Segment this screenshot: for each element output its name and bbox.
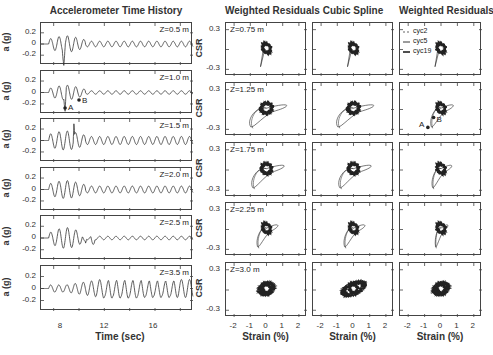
acceleration-trace [41, 228, 193, 249]
x-axis-label-strain: Strain (%) [399, 331, 481, 342]
y-tick: 0.2 [14, 220, 36, 229]
csr-y-tick: -0.3 [200, 63, 220, 72]
marker-b-label: B [82, 96, 87, 105]
depth-label: Z=1.75 m [230, 145, 264, 154]
x-tick-8: 8 [50, 321, 70, 330]
wr-panel-5: Z=3.0 m [225, 262, 306, 316]
legend-cyc19: cyc19 [413, 47, 431, 54]
wr-panel-4: Z=2.25 m [225, 202, 306, 255]
y-tick: 0 [14, 283, 36, 292]
left-column-title: Accelerometer Time History [40, 5, 192, 16]
depth-label: Z=0.75 m [230, 25, 264, 34]
x-tick-12: 12 [94, 321, 114, 330]
marker-a-label: A [419, 120, 424, 129]
depth-label: Z=1.5 m [159, 121, 189, 130]
csr-y-tick: 0.3 [200, 264, 220, 273]
y-tick: 0 [14, 232, 36, 241]
hysteresis-loop [432, 281, 450, 296]
hysteresis-loop [340, 280, 367, 297]
cs-panel-2 [312, 82, 393, 135]
csr-y-tick: -0.3 [200, 123, 220, 132]
legend-cyc5: cyc5 [413, 37, 427, 44]
x-tick-16: 16 [143, 321, 163, 330]
strain-x-tick: 2 [288, 321, 308, 330]
y-axis-label-acceleration: a (g) [1, 71, 11, 111]
hysteresis-loop [344, 225, 365, 247]
y-axis-label-csr: CSR [194, 273, 204, 303]
hysteresis-loop [258, 281, 276, 296]
marker-a-label: A [68, 103, 73, 112]
wr-panel-3: Z=1.75 m [225, 142, 306, 196]
depth-label: Z=3.0 m [230, 265, 260, 274]
csr-y-tick: 0.3 [200, 24, 220, 33]
cs-panel-1 [312, 22, 393, 75]
depth-label: Z=3.5 m [159, 268, 189, 277]
accel-panel-4: Z=2.0 m [40, 167, 192, 210]
accel-panel-2: Z=1.0 mAB [40, 70, 192, 113]
hysteresis-loop [432, 165, 452, 188]
y-tick: -0.2 [14, 49, 36, 58]
weighted-residuals-2-title: Weighted Residuals [399, 5, 481, 16]
y-axis-label-csr: CSR [194, 93, 204, 123]
wr2-panel-1: cyc2cyc5cyc19 [399, 22, 481, 75]
accel-panel-1: Z=0.5 m [40, 22, 192, 64]
legend-cyc2: cyc2 [413, 27, 427, 34]
csr-y-tick: 0.3 [200, 144, 220, 153]
y-axis-label-acceleration: a (g) [1, 168, 11, 208]
y-tick: -0.2 [14, 295, 36, 304]
y-axis-label-csr: CSR [194, 153, 204, 183]
csr-y-tick: -0.3 [200, 243, 220, 252]
accel-panel-3: Z=1.5 m [40, 118, 192, 161]
depth-label: Z=2.0 m [159, 170, 189, 179]
y-axis-label-acceleration: a (g) [1, 22, 11, 62]
depth-label: Z=1.0 m [159, 73, 189, 82]
depth-label: Z=1.25 m [230, 85, 264, 94]
csr-y-tick: 0.3 [200, 204, 220, 213]
y-axis-label-acceleration: a (g) [1, 119, 11, 159]
y-tick: -0.2 [14, 98, 36, 107]
depth-label: Z=2.25 m [230, 205, 264, 214]
cubic-spline-title: Cubic Spline [312, 5, 394, 16]
wr2-panel-4 [399, 202, 481, 255]
acceleration-trace [41, 36, 193, 66]
hysteresis-loop [257, 225, 278, 247]
y-axis-label-acceleration: a (g) [1, 216, 11, 256]
y-axis-label-csr: CSR [194, 213, 204, 243]
acceleration-trace [41, 280, 193, 299]
depth-label: Z=2.5 m [159, 218, 189, 227]
accel-panel-6: Z=3.5 m [40, 265, 192, 310]
y-tick: 0.2 [14, 172, 36, 181]
y-axis-label-csr: CSR [194, 33, 204, 63]
y-tick: 0.2 [14, 75, 36, 84]
wr2-panel-3 [399, 142, 481, 196]
hysteresis-loop [252, 165, 285, 188]
csr-y-tick: 0.3 [200, 84, 220, 93]
x-axis-label-strain: Strain (%) [225, 331, 306, 342]
weighted-residuals-title: Weighted Residuals [225, 5, 307, 16]
csr-y-tick: -0.3 [200, 304, 220, 313]
marker-b-label: B [437, 115, 442, 124]
x-axis-label-strain: Strain (%) [312, 331, 393, 342]
strain-x-tick: 2 [463, 321, 483, 330]
wr2-panel-5 [399, 262, 481, 316]
y-tick: 0 [14, 135, 36, 144]
y-tick: 0.2 [14, 27, 36, 36]
x-axis-label-time: Time (sec) [60, 331, 180, 342]
y-tick: 0.2 [14, 123, 36, 132]
y-tick: -0.2 [14, 195, 36, 204]
cs-panel-3 [312, 142, 393, 196]
accel-panel-5: Z=2.5 m [40, 215, 192, 259]
wr-panel-1: Z=0.75 m [225, 22, 306, 75]
wr-panel-2: Z=1.25 m [225, 82, 306, 135]
hysteresis-loop [337, 105, 374, 127]
depth-label: Z=0.5 m [159, 25, 189, 34]
y-axis-label-acceleration: a (g) [1, 267, 11, 307]
hysteresis-loop [250, 105, 287, 127]
cs-panel-4 [312, 202, 393, 255]
y-tick: 0 [14, 87, 36, 96]
wr2-panel-2: AB [399, 82, 481, 135]
y-tick: 0.2 [14, 271, 36, 280]
cs-panel-5 [312, 262, 393, 316]
y-tick: -0.2 [14, 146, 36, 155]
acceleration-trace [41, 181, 193, 199]
